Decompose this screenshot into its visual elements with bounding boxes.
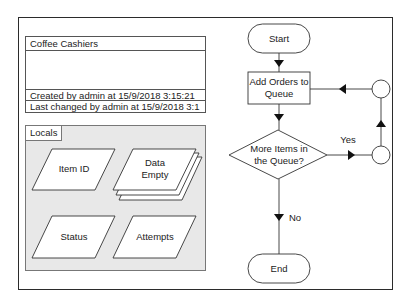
- local-item-id-label: Item ID: [42, 163, 106, 175]
- decision-label-line1: More Items in: [236, 143, 322, 155]
- arrow-right-icon: [348, 150, 355, 160]
- process-label-line2: Queue: [248, 88, 310, 100]
- local-data-label-line2: Empty: [123, 169, 187, 181]
- start-label: Start: [248, 33, 310, 45]
- local-attempts-label: Attempts: [123, 231, 187, 243]
- arrow-down-icon: [274, 214, 284, 221]
- arrow-up-icon: [376, 120, 386, 127]
- diagram-canvas: [0, 0, 413, 304]
- junction-circle-top: [372, 80, 390, 98]
- arrow-left-icon: [339, 84, 346, 94]
- arrow-down-icon: [274, 60, 284, 67]
- process-label-line1: Add Orders to: [248, 76, 310, 88]
- junction-circle-bottom: [372, 146, 390, 164]
- decision-label-line2: the Queue?: [236, 155, 322, 167]
- arrow-down-icon: [274, 114, 284, 121]
- yes-label: Yes: [338, 134, 358, 146]
- local-status-label: Status: [42, 231, 106, 243]
- end-label: End: [248, 263, 310, 275]
- local-data-label-line1: Data: [123, 157, 187, 169]
- no-label: No: [287, 212, 303, 224]
